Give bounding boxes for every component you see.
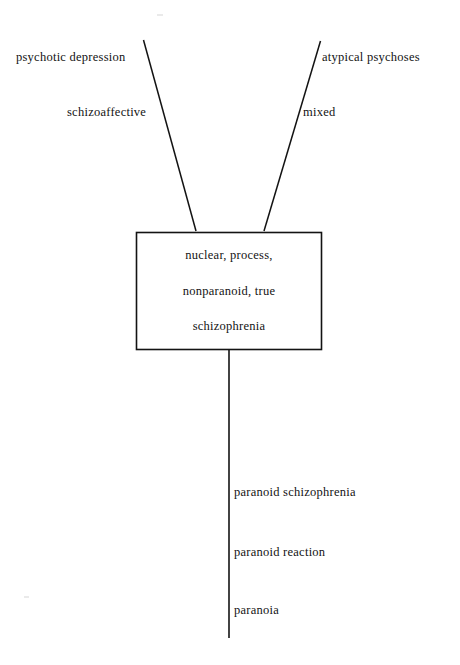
label-paranoia: paranoia	[234, 604, 279, 617]
diagram-canvas: psychotic depression schizoaffective aty…	[0, 0, 460, 665]
scan-speckle	[157, 14, 163, 16]
label-paranoid-schizophrenia: paranoid schizophrenia	[234, 486, 356, 499]
scan-speckle	[24, 596, 29, 598]
center-box-line-3: schizophrenia	[136, 320, 322, 333]
center-box-line-1: nuclear, process,	[136, 249, 322, 262]
right-diagonal-line	[264, 41, 321, 231]
label-paranoid-reaction: paranoid reaction	[234, 546, 325, 559]
label-atypical-psychoses: atypical psychoses	[322, 51, 420, 64]
label-schizoaffective: schizoaffective	[67, 106, 146, 119]
left-diagonal-line	[144, 40, 197, 231]
center-box-line-2: nonparanoid, true	[136, 285, 322, 298]
label-mixed: mixed	[303, 106, 336, 119]
label-psychotic-depression: psychotic depression	[16, 51, 126, 64]
